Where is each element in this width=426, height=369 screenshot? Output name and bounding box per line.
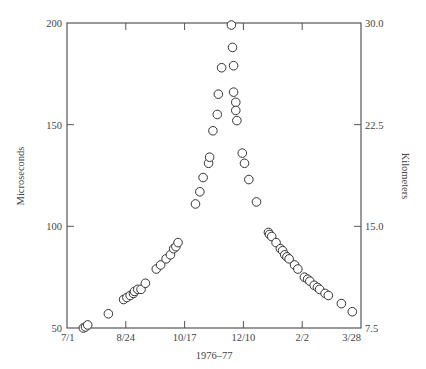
x-tick-label: 3/28 <box>342 332 361 343</box>
x-tick-label: 12/10 <box>231 332 255 343</box>
data-point-circle-icon <box>348 307 357 316</box>
y-tick-label-left: 150 <box>46 120 62 131</box>
data-point-circle-icon <box>229 88 238 97</box>
data-point-circle-icon <box>324 291 333 300</box>
y-tick-label-left: 50 <box>52 323 63 334</box>
y-tick-label-right: 15.0 <box>365 221 383 232</box>
data-point-circle-icon <box>233 116 242 125</box>
data-point-circle-icon <box>213 110 222 119</box>
x-tick-label: 7/1 <box>61 332 74 343</box>
x-axis-title: 1976–77 <box>196 350 233 361</box>
data-point-circle-icon <box>240 159 249 168</box>
scatter-chart: 7/18/2410/1712/102/23/28501001502007.515… <box>0 0 426 369</box>
data-point-circle-icon <box>205 153 214 162</box>
x-tick-label: 2/2 <box>295 332 308 343</box>
data-point-circle-icon <box>238 149 247 158</box>
x-tick-label: 10/17 <box>173 332 197 343</box>
y-tick-label-right: 22.5 <box>365 120 383 131</box>
data-point-circle-icon <box>294 265 303 274</box>
data-point-circle-icon <box>229 61 238 70</box>
y-tick-label-left: 100 <box>46 221 62 232</box>
data-point-circle-icon <box>199 173 208 182</box>
y-tick-label-right: 7.5 <box>365 323 378 334</box>
data-point-circle-icon <box>196 187 205 196</box>
data-point-circle-icon <box>83 321 92 330</box>
data-point-circle-icon <box>214 90 223 99</box>
data-point-circle-icon <box>252 198 261 207</box>
data-point-circle-icon <box>227 21 236 30</box>
data-point-circle-icon <box>217 63 226 72</box>
y-axis-title-left: Microseconds <box>15 147 26 206</box>
data-point-circle-icon <box>104 309 113 318</box>
y-axis-title-right: Kilometers <box>400 153 411 200</box>
y-tick-label-left: 200 <box>46 18 62 29</box>
data-point-circle-icon <box>191 200 200 209</box>
data-point-circle-icon <box>245 175 254 184</box>
data-point-circle-icon <box>174 238 183 247</box>
data-point-circle-icon <box>231 106 240 115</box>
data-point-circle-icon <box>228 43 237 52</box>
data-point-circle-icon <box>209 126 218 135</box>
data-point-circle-icon <box>141 279 150 288</box>
data-points <box>79 21 357 333</box>
y-tick-label-right: 30.0 <box>365 18 383 29</box>
data-point-circle-icon <box>337 299 346 308</box>
x-tick-label: 8/24 <box>116 332 135 343</box>
data-point-circle-icon <box>231 98 240 107</box>
